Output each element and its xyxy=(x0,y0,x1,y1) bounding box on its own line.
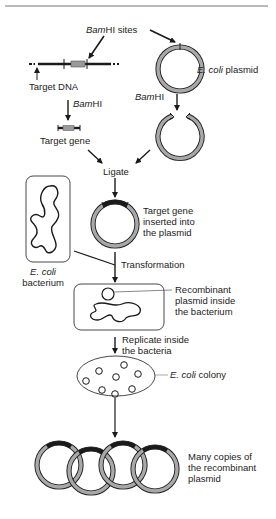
ecoli-plasmid xyxy=(158,43,202,91)
plasmid-copy xyxy=(69,449,113,493)
label-bamhi-right: BamHI xyxy=(135,91,164,102)
label-bamhi-left: BamHI xyxy=(73,98,102,109)
recombinant-plasmid xyxy=(93,202,137,246)
ecoli-bacterium xyxy=(26,176,70,262)
recombinant-plasmid-in-cell xyxy=(102,288,114,300)
label-target-dna: Target DNA xyxy=(29,81,78,92)
label-transformation: Transformation xyxy=(121,259,185,270)
plasmid-copy xyxy=(37,443,81,487)
arrow-plasmid-to-ligate xyxy=(136,150,150,163)
plasmid-copies xyxy=(37,443,177,493)
label-target-gene: Target gene xyxy=(40,135,90,146)
arrow-to-plasmid-site xyxy=(150,30,175,42)
transformation-join-line xyxy=(74,251,115,265)
target-gene-fragment xyxy=(58,125,80,131)
recombinant-label-leader xyxy=(114,290,172,292)
label-many-copies: Many copies of the recombinant plasmid xyxy=(188,451,256,484)
label-recombinant-plasmid-inside: Recombinant plasmid inside the bacterium xyxy=(175,284,235,317)
label-ecoli-plasmid: E. coli plasmid xyxy=(197,64,258,75)
ecoli-colony xyxy=(77,356,155,397)
target-dna-strand xyxy=(29,59,119,69)
target-gene-segment xyxy=(71,61,85,67)
label-replicate-inside: Replicate inside the bacteria xyxy=(122,334,189,356)
cut-plasmid xyxy=(158,113,202,158)
label-ligate: Ligate xyxy=(103,166,129,177)
label-ecoli-colony: E. coli colony xyxy=(170,369,226,380)
label-ecoli-bacterium: E. coli bacterium xyxy=(20,266,66,288)
label-bamhi-sites: BamHI sites xyxy=(86,24,137,35)
label-target-gene-inserted: Target gene inserted into the plasmid xyxy=(143,205,195,238)
arrow-gene-to-ligate xyxy=(88,150,102,163)
arrow-to-dna-site xyxy=(89,36,104,58)
plasmid-copy xyxy=(133,447,177,491)
